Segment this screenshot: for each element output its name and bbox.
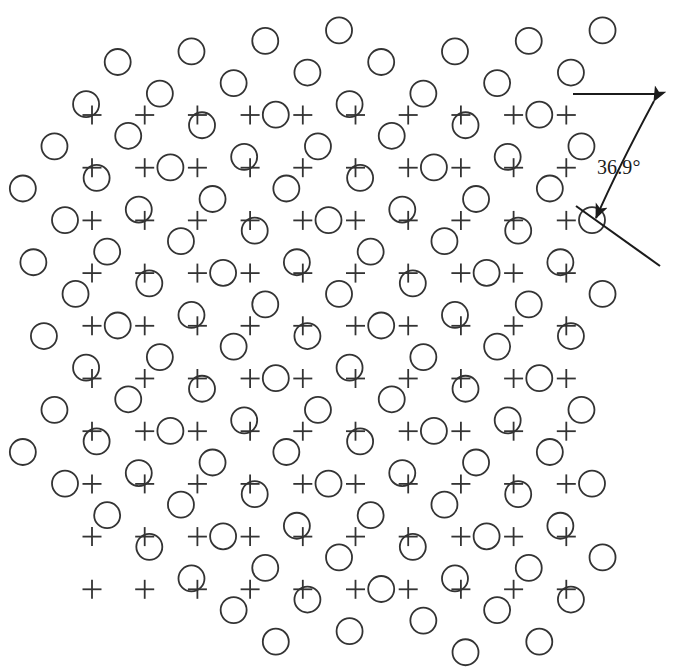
- lattice-plus-site: [188, 369, 207, 388]
- lattice-plus-site: [135, 580, 154, 599]
- lattice-circle-site: [516, 291, 542, 317]
- lattice-circle-site: [389, 197, 415, 223]
- lattice-plus-site: [504, 369, 523, 388]
- lattice-circle-site: [73, 91, 99, 117]
- lattice-circle-site: [242, 218, 268, 244]
- lattice-circle-site: [84, 165, 110, 191]
- lattice-plus-site: [346, 316, 365, 335]
- lattice-plus-site: [399, 264, 418, 283]
- lattice-plus-site: [504, 474, 523, 493]
- lattice-circle-site: [526, 102, 552, 128]
- lattice-plus-site: [557, 580, 576, 599]
- lattice-plus-site: [346, 474, 365, 493]
- lattice-circle-site: [590, 281, 616, 307]
- lattice-circle-site: [231, 407, 257, 433]
- lattice-circle-site: [294, 587, 320, 613]
- lattice-plus-site: [451, 158, 470, 177]
- lattice-circle-site: [284, 249, 310, 275]
- lattice-plus-site: [135, 422, 154, 441]
- lattice-plus-site: [135, 158, 154, 177]
- lattice-plus-site: [188, 527, 207, 546]
- lattice-circle-site: [558, 60, 584, 86]
- lattice-plus-site: [451, 474, 470, 493]
- lattice-plus-site: [241, 580, 260, 599]
- lattice-circle-site: [474, 260, 500, 286]
- lattice-plus-site: [293, 369, 312, 388]
- lattice-plus-site: [504, 106, 523, 125]
- lattice-circle-site: [305, 133, 331, 159]
- lattice-circle-site: [178, 565, 204, 591]
- lattice-circle-site: [410, 344, 436, 370]
- lattice-plus-site: [293, 580, 312, 599]
- lattice-plus-site: [293, 422, 312, 441]
- lattice-circle-site: [453, 639, 479, 665]
- lattice-circle-site: [305, 397, 331, 423]
- lattice-circle-site: [410, 81, 436, 107]
- lattice-circle-site: [273, 439, 299, 465]
- lattice-circle-site: [484, 597, 510, 623]
- lattice-circle-site: [242, 481, 268, 507]
- lattice-plus-site: [83, 211, 102, 230]
- lattice-plus-site: [451, 106, 470, 125]
- lattice-plus-site: [557, 369, 576, 388]
- lattice-circle-site: [126, 460, 152, 486]
- lattice-circle-site: [147, 81, 173, 107]
- lattice-circle-site: [221, 70, 247, 96]
- lattice-plus-site: [188, 158, 207, 177]
- lattice-circle-site: [442, 565, 468, 591]
- lattice-circle-site: [178, 38, 204, 64]
- lattice-circle-site: [105, 49, 131, 75]
- lattice-circle-site: [368, 312, 394, 338]
- lattice-circle-site: [516, 555, 542, 581]
- lattice-plus-site: [504, 264, 523, 283]
- lattice-circle-site: [568, 397, 594, 423]
- lattice-plus-site: [557, 316, 576, 335]
- lattice-circle-site: [52, 207, 78, 233]
- lattice-circle-site: [126, 197, 152, 223]
- lattice-circle-site: [368, 576, 394, 602]
- lattice-plus-site: [451, 264, 470, 283]
- lattice-plus-site: [135, 264, 154, 283]
- lattice-circle-site: [347, 165, 373, 191]
- lattice-circle-site: [505, 481, 531, 507]
- lattice-circle-site: [221, 597, 247, 623]
- lattice-circle-site: [347, 428, 373, 454]
- lattice-circle-site: [10, 439, 36, 465]
- lattice-circle-site: [484, 334, 510, 360]
- lattice-circle-site: [484, 70, 510, 96]
- lattice-circle-site: [453, 376, 479, 402]
- lattice-circle-site: [579, 471, 605, 497]
- lattice-circle-site: [337, 618, 363, 644]
- lattice-circle-site: [105, 312, 131, 338]
- lattice-circle-site: [136, 270, 162, 296]
- lattice-circle-site: [590, 544, 616, 570]
- lattice-plus-site: [504, 580, 523, 599]
- lattice-plus-site: [293, 316, 312, 335]
- lattice-plus-site: [504, 211, 523, 230]
- lattice-circle-site: [94, 502, 120, 528]
- lattice-plus-site: [188, 211, 207, 230]
- lattice-circle-site: [221, 334, 247, 360]
- lattice-plus-site: [346, 527, 365, 546]
- lattice-circle-site: [294, 60, 320, 86]
- lattice-circle-site: [115, 123, 141, 149]
- lattice-plus-site: [83, 527, 102, 546]
- lattice-circle-site: [537, 175, 563, 201]
- lattice-circle-site: [231, 144, 257, 170]
- lattice-circle-site: [442, 302, 468, 328]
- lattice-plus-site: [293, 106, 312, 125]
- lattice-circle-site: [136, 534, 162, 560]
- lattice-plus-site: [399, 106, 418, 125]
- lattice-diagram-canvas: [0, 0, 687, 671]
- lattice-circle-site: [537, 439, 563, 465]
- lattice-plus-site: [293, 474, 312, 493]
- lattice-plus-site: [83, 580, 102, 599]
- lattice-circle-site: [115, 386, 141, 412]
- lattice-plus-site: [399, 580, 418, 599]
- lattice-circle-site: [294, 323, 320, 349]
- lattice-circle-site: [147, 344, 173, 370]
- lattice-plus-site: [557, 422, 576, 441]
- lattice-circle-site: [453, 112, 479, 138]
- lattice-plus-site: [346, 158, 365, 177]
- lattice-plus-site: [504, 527, 523, 546]
